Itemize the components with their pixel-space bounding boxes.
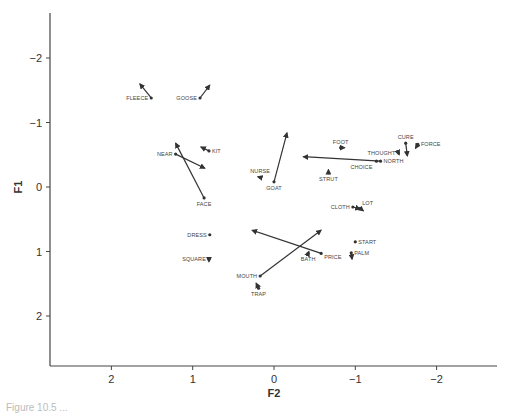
x-tick-label: −2 <box>430 373 443 385</box>
point-label: NEAR <box>157 151 173 157</box>
x-tick-label: −1 <box>349 373 362 385</box>
point-label: MOUTH <box>237 273 258 279</box>
point-square <box>207 258 210 261</box>
point-label: GOOSE <box>176 95 197 101</box>
point-dress <box>208 233 211 236</box>
arrow-north <box>303 157 380 162</box>
arrow-goat <box>274 133 287 182</box>
point-label: GOAT <box>266 185 282 191</box>
point-label: PRICE <box>324 254 342 260</box>
x-tick-label: 0 <box>271 373 277 385</box>
y-tick-label: 0 <box>36 181 42 193</box>
point-label: LOT <box>362 200 374 206</box>
arrow-near <box>176 154 205 168</box>
label-layer: FLEECEGOOSEKITNEARFACENURSEGOATFOOTSTRUT… <box>126 95 441 297</box>
point-bath <box>307 252 310 255</box>
point-price <box>320 252 323 255</box>
x-axis-title: F2 <box>268 387 281 399</box>
point-label: TRAP <box>251 291 266 297</box>
point-label: CHOICE <box>350 164 372 170</box>
point-nurse <box>259 176 262 179</box>
point-face <box>202 196 205 199</box>
point-mouth <box>259 274 262 277</box>
biplot-chart: −2−1012210−1−2F2F1 FLEECEGOOSEKITNEARFAC… <box>0 0 512 416</box>
arrow-cure <box>406 143 408 156</box>
point-palm <box>350 251 353 254</box>
arrow-mouth <box>260 230 321 276</box>
arrow-face <box>176 143 204 198</box>
y-tick-label: −1 <box>29 117 42 129</box>
point-label: START <box>358 239 377 245</box>
point-label: FACE <box>197 201 212 207</box>
x-tick-label: 2 <box>108 373 114 385</box>
axes: −2−1012210−1−2F2F1 <box>12 13 497 399</box>
point-label: BATH <box>301 256 316 262</box>
figure-caption: Figure 10.5 ... <box>6 402 68 413</box>
point-strut <box>327 171 330 174</box>
point-foot <box>339 146 342 149</box>
y-tick-label: 1 <box>36 246 42 258</box>
point-cloth <box>351 205 354 208</box>
point-trap <box>257 287 260 290</box>
point-label: FORCE <box>421 141 441 147</box>
point-start <box>354 240 357 243</box>
point-label: FOOT <box>333 139 349 145</box>
point-label: KIT <box>212 148 221 154</box>
point-north <box>379 160 382 163</box>
point-label: NORTH <box>384 158 404 164</box>
point-fleece <box>150 96 153 99</box>
point-near <box>174 153 177 156</box>
arrow-goose <box>200 85 210 98</box>
point-kit <box>207 149 210 152</box>
point-label: CLOTH <box>331 204 350 210</box>
point-label: THOUGHT <box>367 150 395 156</box>
point-force <box>416 143 419 146</box>
y-tick-label: −2 <box>29 52 42 64</box>
y-tick-label: 2 <box>36 310 42 322</box>
point-choice <box>375 160 378 163</box>
point-lot <box>359 207 362 210</box>
point-label: DRESS <box>187 232 207 238</box>
point-label: CURE <box>398 134 414 140</box>
point-label: SQUARE <box>182 256 206 262</box>
point-goose <box>198 96 201 99</box>
arrow-price <box>252 230 321 253</box>
point-label: STRUT <box>319 176 338 182</box>
point-cure <box>404 142 407 145</box>
point-label: NURSE <box>250 168 270 174</box>
y-axis-title: F1 <box>12 181 24 194</box>
point-label: PALM <box>354 250 369 256</box>
point-thought <box>397 151 400 154</box>
point-goat <box>272 180 275 183</box>
x-tick-label: 1 <box>190 373 196 385</box>
point-label: FLEECE <box>126 95 148 101</box>
